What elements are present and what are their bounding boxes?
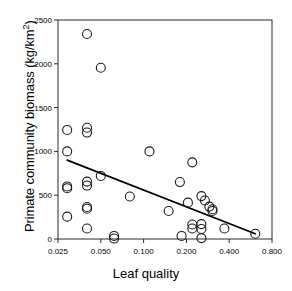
regression-trendline xyxy=(67,160,255,234)
data-point-marker xyxy=(63,147,72,156)
data-point-marker xyxy=(83,30,92,39)
data-point-marker xyxy=(197,234,206,243)
x-axis-ticks: 0.0250.0500.1000.2000.4000.800 xyxy=(48,239,283,256)
y-axis-label-tail: ) xyxy=(22,20,37,24)
x-tick-label: 0.025 xyxy=(48,247,69,256)
x-tick-label: 0.400 xyxy=(219,247,240,256)
data-point-marker xyxy=(63,212,72,221)
y-axis-label: Primate community biomass (kg/km2) xyxy=(21,1,37,251)
y-axis-ticks: 05001000150020002500 xyxy=(34,16,58,244)
x-tick-label: 0.200 xyxy=(176,247,197,256)
data-point-marker xyxy=(183,198,192,207)
x-tick-label: 0.050 xyxy=(91,247,112,256)
data-point-marker xyxy=(96,63,105,72)
data-point-marker xyxy=(220,224,229,233)
y-axis-label-text: Primate community biomass (kg/km xyxy=(22,29,37,232)
data-point-marker xyxy=(145,147,154,156)
y-axis-label-superscript: 2 xyxy=(21,24,31,29)
y-tick-label: 500 xyxy=(39,191,53,200)
x-tick-label: 0.100 xyxy=(134,247,155,256)
plot-canvas: 05001000150020002500 0.0250.0500.1000.20… xyxy=(0,0,292,291)
data-point-marker xyxy=(175,178,184,187)
data-points xyxy=(63,30,260,244)
data-point-marker xyxy=(164,206,173,215)
x-tick-label: 0.800 xyxy=(262,247,283,256)
data-point-marker xyxy=(63,125,72,134)
data-point-marker xyxy=(125,192,134,201)
data-point-marker xyxy=(83,224,92,233)
x-axis-label: Leaf quality xyxy=(0,266,292,281)
y-tick-label: 0 xyxy=(48,235,53,244)
data-point-marker xyxy=(188,158,197,167)
scatter-plot-figure: Primate community biomass (kg/km2) Leaf … xyxy=(0,0,292,291)
trendline-segment xyxy=(67,160,255,234)
